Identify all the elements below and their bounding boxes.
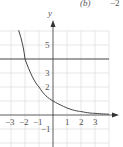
x-tick-neg2: −2 [19,118,29,127]
x-tick-neg3: −3 [5,118,15,127]
part-value: −2 [110,0,120,8]
y-tick-2: 2 [45,83,50,92]
y-axis-label: y [48,9,52,18]
y-axis-arrow-icon [51,20,56,27]
x-tick-3: 3 [93,118,98,127]
x-axis-arrow-icon [112,113,119,118]
y-tick-3: 3 [45,69,50,78]
grid [0,31,109,147]
exponential-curve [19,30,109,114]
x-tick-1: 1 [65,118,70,127]
part-label: (b) [80,0,91,8]
y-tick-5: 5 [45,41,50,50]
x-tick-2: 2 [79,118,84,127]
x-tick-neg1: −1 [33,118,43,127]
